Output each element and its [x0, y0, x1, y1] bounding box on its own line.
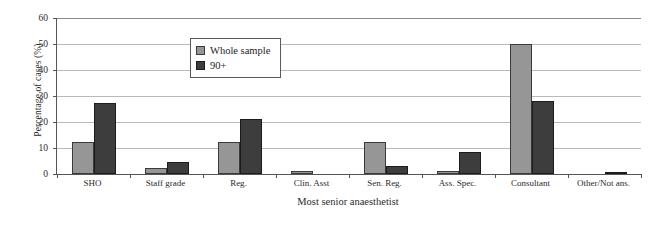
x-axis-label: Most senior anaesthetist — [56, 196, 640, 207]
y-tick-mark — [53, 70, 57, 71]
bar-ninety-plus — [240, 119, 262, 174]
bar-group — [349, 18, 422, 174]
bar-series-container — [57, 18, 641, 174]
x-tick-mark — [641, 174, 642, 178]
x-tick-label: Ass. Spec. — [439, 178, 477, 188]
bar-group — [422, 18, 495, 174]
y-tick-mark — [53, 18, 57, 19]
y-tick-mark — [53, 44, 57, 45]
bar-whole-sample — [364, 142, 386, 175]
x-tick-label: Clin. Asst — [294, 178, 330, 188]
x-tick-label: Reg. — [230, 178, 247, 188]
x-tick-label: Staff grade — [146, 178, 186, 188]
bar-ninety-plus — [605, 172, 627, 174]
x-tick-label: Other/Not ans. — [577, 178, 630, 188]
bar-ninety-plus — [167, 162, 189, 174]
y-tick-label: 40 — [22, 65, 48, 75]
y-tick-label: 20 — [22, 117, 48, 127]
x-axis-tick-labels: SHOStaff gradeReg.Clin. AsstSen. Reg.Ass… — [56, 178, 640, 198]
x-tick-label: Sen. Reg. — [367, 178, 402, 188]
bar-ninety-plus — [386, 166, 408, 174]
legend-swatch-icon-ninety-plus — [196, 61, 205, 70]
bar-ninety-plus — [459, 152, 481, 174]
y-tick-label: 0 — [22, 169, 48, 179]
y-tick-label: 10 — [22, 143, 48, 153]
legend-label-whole-sample: Whole sample — [210, 45, 270, 56]
plot-area — [56, 18, 641, 175]
bar-whole-sample — [72, 142, 94, 175]
bar-whole-sample — [218, 142, 240, 175]
bar-whole-sample — [291, 171, 313, 174]
legend-item-ninety-plus: 90+ — [196, 58, 270, 73]
legend-label-ninety-plus: 90+ — [210, 60, 226, 71]
bar-group — [568, 18, 641, 174]
bar-whole-sample — [510, 44, 532, 174]
y-tick-mark — [53, 96, 57, 97]
bar-ninety-plus — [94, 103, 116, 175]
y-tick-label: 50 — [22, 39, 48, 49]
bar-group — [57, 18, 130, 174]
bar-ninety-plus — [532, 101, 554, 174]
y-tick-label: 60 — [22, 13, 48, 23]
bar-chart-figure: Percentage of cases (%) 0102030405060 SH… — [0, 0, 652, 232]
legend-item-whole-sample: Whole sample — [196, 43, 270, 58]
bar-whole-sample — [145, 168, 167, 175]
bar-group — [276, 18, 349, 174]
bar-whole-sample — [437, 171, 459, 174]
x-tick-label: Consultant — [511, 178, 550, 188]
chart-legend: Whole sample 90+ — [190, 38, 281, 78]
bar-group — [495, 18, 568, 174]
y-tick-mark — [53, 148, 57, 149]
legend-swatch-icon-whole-sample — [196, 46, 205, 55]
x-tick-label: SHO — [83, 178, 101, 188]
y-tick-label: 30 — [22, 91, 48, 101]
y-tick-mark — [53, 122, 57, 123]
y-axis-tick-labels: 0102030405060 — [22, 0, 48, 232]
